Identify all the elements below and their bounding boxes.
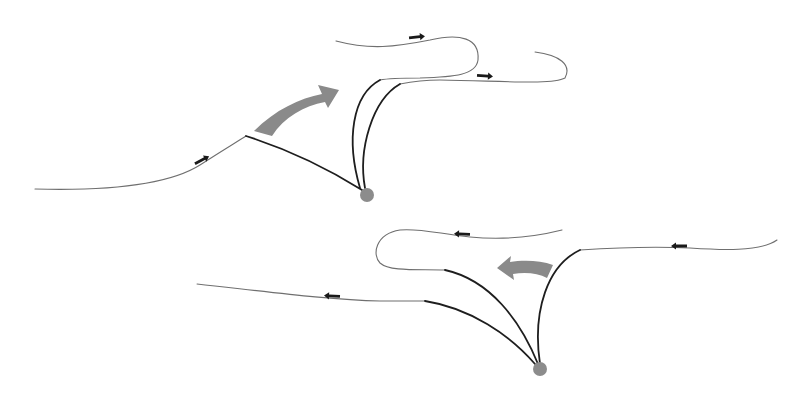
bottom-panel	[197, 230, 777, 376]
field-line-inner-segment	[445, 270, 538, 364]
field-line-inner-segment	[246, 136, 362, 190]
field-line	[197, 284, 535, 364]
field-line-inner-segment	[425, 301, 535, 364]
footpoint-dot	[533, 362, 547, 376]
field-line-outer-segment	[400, 52, 567, 84]
field-line	[336, 37, 478, 188]
field-line-outer-segment	[336, 37, 478, 80]
field-line-outer-segment	[197, 284, 425, 301]
motion-arrow-icon	[497, 256, 553, 280]
motion-arrow-icon	[254, 85, 339, 136]
field-line	[538, 240, 777, 364]
field-line	[376, 230, 562, 364]
arrow-left-icon	[671, 242, 687, 249]
field-line	[363, 52, 567, 188]
arrow-right-icon	[409, 33, 426, 42]
field-line-inner-segment	[363, 84, 400, 188]
diagram-panels	[35, 33, 777, 376]
top-panel	[35, 33, 567, 202]
field-line-outer-segment	[35, 136, 246, 189]
arrow-right-icon	[477, 72, 493, 80]
field-line-inner-segment	[353, 80, 380, 188]
field-line-diagram	[0, 0, 810, 394]
footpoint-dot	[360, 188, 374, 202]
